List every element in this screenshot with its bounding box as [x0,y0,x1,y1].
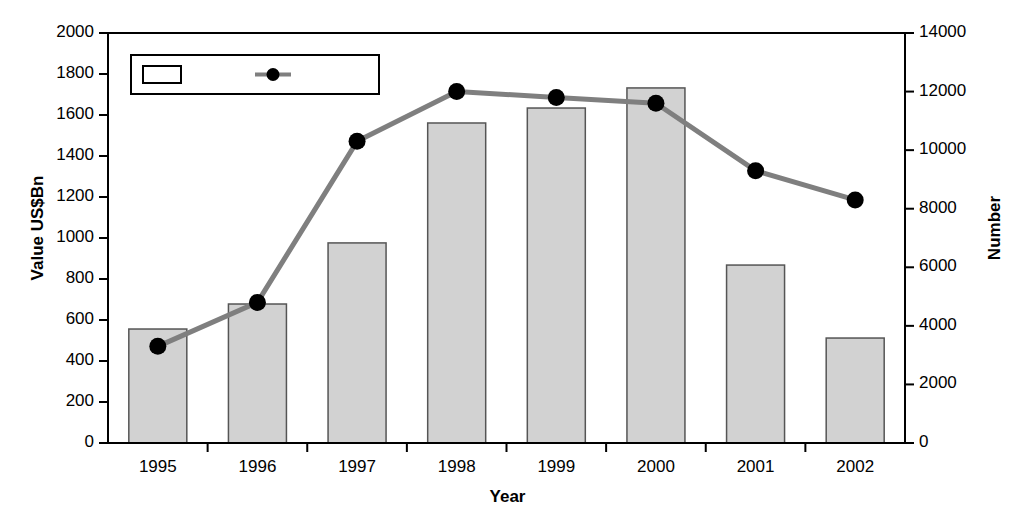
number-marker-2000 [647,95,664,112]
y-tick-label-left-800: 800 [24,268,94,288]
bar-1996 [228,304,286,443]
number-marker-1997 [349,133,366,150]
y-tick-label-left-1800: 1800 [24,63,94,83]
number-marker-1998 [448,83,465,100]
y-tick-label-right-4000: 4000 [919,315,999,335]
number-marker-1999 [548,89,565,106]
bar-1997 [328,243,386,443]
y-tick-label-left-0: 0 [24,432,94,452]
x-tick-label-1999: 1999 [506,457,606,477]
y-tick-label-left-600: 600 [24,309,94,329]
y-tick-label-left-1000: 1000 [24,227,94,247]
x-tick-label-1996: 1996 [207,457,307,477]
bar-2000 [627,88,685,443]
bar-series-value [129,88,884,443]
number-marker-1996 [249,294,266,311]
bar-1999 [527,108,585,443]
x-tick-label-1997: 1997 [307,457,407,477]
y-tick-label-right-14000: 14000 [919,22,999,42]
y-tick-label-right-10000: 10000 [919,139,999,159]
y-tick-label-right-0: 0 [919,432,999,452]
y-tick-label-right-6000: 6000 [919,256,999,276]
x-tick-label-1995: 1995 [108,457,208,477]
y-tick-label-left-400: 400 [24,350,94,370]
y-tick-label-right-12000: 12000 [919,81,999,101]
number-marker-2002 [847,191,864,208]
y-tick-label-right-2000: 2000 [919,373,999,393]
bar-2002 [826,338,884,443]
number-marker-2001 [747,162,764,179]
y-tick-label-left-200: 200 [24,391,94,411]
chart-legend [131,55,379,94]
number-marker-1995 [149,338,166,355]
bar-1998 [428,123,486,443]
plot-area [0,0,1015,518]
y-tick-label-left-2000: 2000 [24,22,94,42]
y-tick-label-left-1600: 1600 [24,104,94,124]
x-tick-label-2001: 2001 [706,457,806,477]
y-tick-label-right-8000: 8000 [919,198,999,218]
x-tick-label-1998: 1998 [407,457,507,477]
chart-container: Value US$Bn Number Year 0200400600800100… [0,0,1015,518]
y-tick-label-left-1400: 1400 [24,145,94,165]
y-tick-label-left-1200: 1200 [24,186,94,206]
legend-swatch-number-dot-icon [267,68,280,81]
bar-2001 [727,265,785,443]
legend-swatch-value-icon [143,66,181,83]
x-tick-label-2002: 2002 [805,457,905,477]
x-tick-label-2000: 2000 [606,457,706,477]
